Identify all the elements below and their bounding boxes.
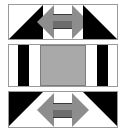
top-panel: Top panel xyxy=(8,4,118,40)
middle-panel: Middle panel xyxy=(8,44,118,87)
white-strip-outer-left xyxy=(9,45,18,86)
white-strip-inner-left xyxy=(29,45,40,86)
vertical-black-bar-right xyxy=(97,45,108,86)
center-gray-square xyxy=(40,45,86,86)
gray-arrowhead-left xyxy=(37,93,54,127)
vertical-black-bar-left xyxy=(18,45,29,86)
figure-root: Top panel Middle panel Bottom pa xyxy=(0,0,126,133)
white-strip-inner-right xyxy=(86,45,97,86)
gray-arrowhead-left xyxy=(37,5,54,39)
black-triangle-lower-right xyxy=(83,5,117,39)
bottom-panel: Bottom panel xyxy=(8,91,118,128)
white-strip-outer-right xyxy=(108,45,117,86)
black-triangle-upper-right xyxy=(83,92,117,126)
